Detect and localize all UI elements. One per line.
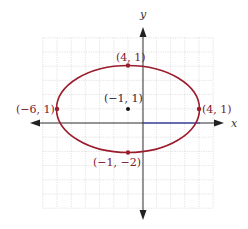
point-left (55, 107, 59, 111)
y-axis-down-arrow-icon (140, 210, 147, 220)
ellipse-diagram: x y (4, 1) (−6, 1) (4, 1) (−1, −2) (−1, … (0, 0, 248, 229)
x-axis-label: x (231, 117, 238, 130)
x-axis-right-arrow-icon (214, 120, 224, 127)
x-axis-left-arrow-icon (30, 120, 40, 127)
label-center: (−1, 1) (104, 92, 143, 105)
point-right (197, 107, 201, 111)
label-right: (4, 1) (202, 103, 232, 116)
label-bottom: (−1, −2) (93, 156, 141, 169)
label-top: (4, 1) (116, 51, 146, 64)
y-axis-label: y (139, 8, 147, 21)
label-left: (−6, 1) (16, 103, 55, 116)
point-bottom (126, 150, 130, 154)
y-axis-up-arrow-icon (140, 27, 147, 37)
point-center (126, 107, 130, 111)
